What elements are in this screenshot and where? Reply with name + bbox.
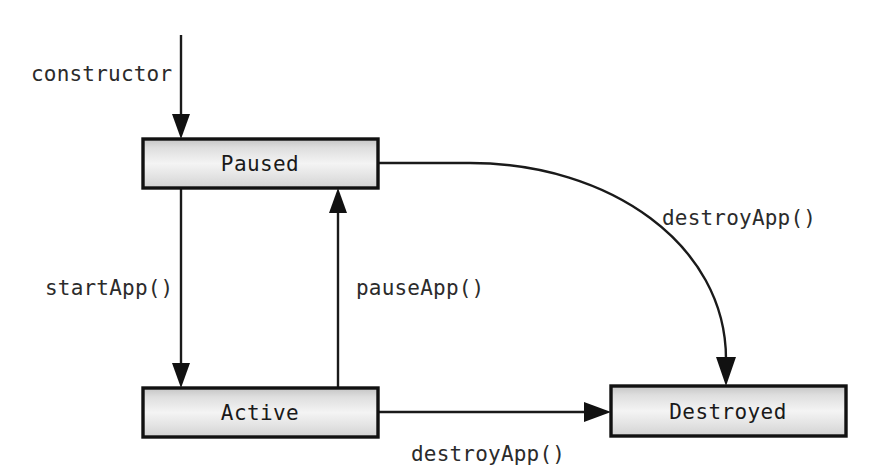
destroy-app-curve (378, 163, 726, 359)
transition-label-destroy-app-from-active: destroyApp() (411, 442, 565, 466)
state-node-active[interactable]: Active (143, 388, 378, 437)
transition-pause-app: pauseApp() (329, 188, 484, 388)
constructor-arrowhead (172, 114, 190, 139)
state-node-destroyed[interactable]: Destroyed (611, 386, 846, 436)
transition-label-destroy-app-from-paused: destroyApp() (662, 206, 816, 230)
transition-destroy-app-from-paused: destroyApp() (378, 163, 816, 386)
diagram-canvas: constructor startApp() pauseApp() destro… (0, 0, 872, 471)
transition-label-pause-app: pauseApp() (356, 276, 484, 300)
state-label-active: Active (221, 401, 299, 425)
transition-constructor: constructor (31, 35, 190, 139)
pause-app-arrowhead (329, 188, 347, 213)
transition-start-app: startApp() (45, 188, 190, 388)
transition-destroy-app-from-active: destroyApp() (378, 402, 611, 466)
state-label-destroyed: Destroyed (669, 400, 786, 424)
state-label-paused: Paused (221, 152, 299, 176)
state-node-paused[interactable]: Paused (143, 139, 378, 188)
transition-label-start-app: startApp() (45, 276, 173, 300)
destroy-app-curve-arrowhead (716, 357, 736, 386)
state-diagram: constructor startApp() pauseApp() destro… (0, 0, 872, 471)
start-app-arrowhead (172, 363, 190, 388)
transition-label-constructor: constructor (31, 62, 172, 86)
destroy-app-arrowhead (584, 402, 611, 422)
